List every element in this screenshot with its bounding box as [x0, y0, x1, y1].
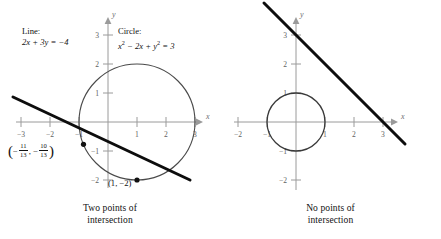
x-tick-right-4: 3: [381, 130, 385, 139]
caption-left-line2: intersection: [0, 215, 220, 227]
y-tick-left-2: 1: [95, 89, 99, 98]
caption-right: No points of intersection: [220, 203, 441, 226]
y-tick-left-3: −1: [91, 147, 99, 156]
y-tick-left-0: 3: [95, 31, 99, 40]
caption-right-line1: No points of: [220, 203, 441, 215]
panel-no-points: x y −2 −1 1 2 3 3 2: [220, 0, 441, 239]
y-tick-left-4: −2: [91, 176, 99, 185]
line-label-left-heading: Line:: [22, 26, 69, 37]
x-axis-right: [234, 119, 398, 126]
x-ticks-right: −2 −1 1 2 3: [234, 117, 385, 139]
y-tick-right-1: 2: [283, 60, 287, 69]
x-axis-left: [16, 119, 203, 126]
intersection-point-1: [81, 142, 86, 147]
y-axis-left: [105, 17, 112, 188]
y-ticks-right: 3 2 1 −1 −2: [279, 31, 301, 185]
circle-label-left-heading: Circle:: [118, 26, 175, 37]
x-axis-label-left: x: [205, 112, 210, 121]
x-tick-left-3: 1: [135, 130, 139, 139]
x-ticks-left: −3 −2 −1 1 2 3: [17, 117, 197, 139]
x-axis-label-right: x: [400, 112, 405, 121]
line-curve-right: [264, 3, 405, 144]
caption-left: Two points of intersection: [0, 203, 220, 226]
caption-left-line1: Two points of: [0, 203, 220, 215]
y-tick-right-2: 1: [283, 89, 287, 98]
line-label-left-equation: 2x + 3y = −4: [22, 37, 69, 48]
x-tick-left-0: −3: [17, 130, 25, 139]
y-axis-right: [293, 17, 300, 190]
y-axis-label-right: y: [299, 10, 304, 19]
circle-label-left-equation: x2 − 2x + y2 = 3: [118, 37, 175, 52]
panel-two-points: x y −3 −2 −1 1 2 3: [0, 0, 220, 239]
y-tick-right-4: −2: [279, 176, 287, 185]
y-axis-label-left: y: [111, 10, 116, 19]
intersection-point-2-label: (1, −2): [108, 178, 131, 188]
intersection-figure: x y −3 −2 −1 1 2 3: [0, 0, 441, 239]
plot-right: x y −2 −1 1 2 3 3 2: [220, 0, 441, 200]
circle-label-left: Circle: x2 − 2x + y2 = 3: [118, 26, 175, 52]
y-tick-left-1: 2: [95, 60, 99, 69]
caption-right-line2: intersection: [220, 215, 441, 227]
line-label-left: Line: 2x + 3y = −4: [22, 26, 69, 48]
fraction-10-13: 1013: [39, 143, 48, 158]
x-tick-right-0: −2: [234, 130, 242, 139]
x-tick-left-2: −1: [75, 130, 83, 139]
y-tick-right-0: 3: [283, 31, 287, 40]
intersection-point-2: [134, 177, 139, 182]
intersection-point-1-label: (−1113, −1013): [8, 143, 54, 158]
fraction-11-13: 1113: [19, 143, 28, 158]
x-tick-left-4: 2: [164, 130, 168, 139]
x-tick-right-3: 2: [352, 130, 356, 139]
x-tick-left-1: −2: [46, 130, 54, 139]
